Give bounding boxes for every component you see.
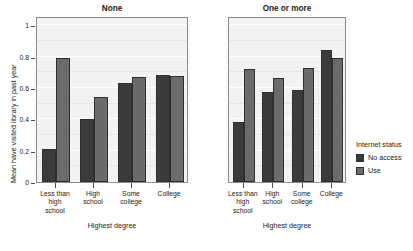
panel-title-none: None <box>36 4 188 13</box>
legend-label-no-access: No access <box>368 153 402 162</box>
bar <box>156 75 170 182</box>
bar <box>332 58 343 182</box>
facet-panel-one-or-more <box>228 17 346 183</box>
gridline-major <box>37 56 187 57</box>
bar <box>292 90 303 182</box>
gridline-major <box>37 24 187 25</box>
bar <box>132 77 146 182</box>
x-tick-mark <box>131 183 132 188</box>
y-tick-label: 0.4 <box>4 116 29 123</box>
legend-item-no-access[interactable]: No access <box>356 153 402 162</box>
chart-root: Mean have visited library in past year N… <box>0 0 413 251</box>
gridline-minor <box>37 40 187 41</box>
y-axis-title: Mean have visited library in past year <box>9 64 18 183</box>
bar <box>94 97 108 182</box>
x-tick-mark <box>243 183 244 188</box>
y-tick-mark <box>31 58 35 59</box>
bar <box>244 69 255 182</box>
y-tick-mark <box>31 152 35 153</box>
legend: Internet status No access Use <box>356 140 402 179</box>
bar <box>56 58 70 182</box>
bar <box>273 78 284 182</box>
y-tick-label: 1 <box>4 22 29 29</box>
x-tick-mark <box>93 183 94 188</box>
x-tick-label: College <box>313 190 351 198</box>
y-tick-mark <box>31 89 35 90</box>
x-tick-label: College <box>146 190 192 198</box>
legend-label-use: Use <box>368 166 381 175</box>
bar <box>170 76 184 182</box>
y-tick-label: 0.6 <box>4 85 29 92</box>
x-axis-title-left: Highest degree <box>36 221 188 230</box>
x-tick-mark <box>302 183 303 188</box>
legend-swatch-use <box>356 167 364 175</box>
y-tick-mark <box>31 120 35 121</box>
facet-panel-none <box>36 17 188 183</box>
bar <box>303 68 314 182</box>
gridline-major <box>229 24 345 25</box>
x-tick-mark <box>272 183 273 188</box>
bar <box>118 83 132 182</box>
y-tick-mark <box>31 26 35 27</box>
legend-item-use[interactable]: Use <box>356 166 402 175</box>
panel-title-one-or-more: One or more <box>228 4 346 13</box>
bar <box>233 122 244 182</box>
x-tick-mark <box>55 183 56 188</box>
y-tick-label: 0.8 <box>4 54 29 61</box>
legend-title: Internet status <box>356 140 402 149</box>
y-tick-label: 0.2 <box>4 148 29 155</box>
bar <box>321 50 332 182</box>
y-tick-label: 0 <box>4 179 29 186</box>
y-tick-mark <box>31 183 35 184</box>
legend-swatch-no-access <box>356 154 364 162</box>
x-tick-mark <box>331 183 332 188</box>
bar <box>42 149 56 182</box>
x-tick-mark <box>169 183 170 188</box>
bar <box>262 92 273 182</box>
gridline-minor <box>229 40 345 41</box>
bar <box>80 119 94 182</box>
x-axis-title-right: Highest degree <box>228 221 346 230</box>
